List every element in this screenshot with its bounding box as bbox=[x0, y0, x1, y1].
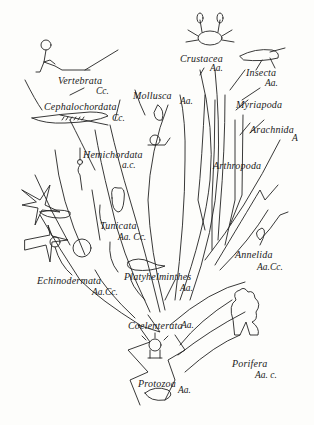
taxon-mollusca: Mollusca bbox=[133, 90, 172, 101]
taxon-echinodermata-code: Aa.Cc. bbox=[92, 287, 118, 297]
flatworm-icon bbox=[127, 259, 165, 271]
taxon-arachnida-code: A bbox=[292, 133, 298, 143]
taxon-echinodermata: Echinodermata bbox=[37, 275, 101, 286]
tunicate-icon bbox=[112, 187, 125, 212]
taxon-tunicata: Tunicata bbox=[100, 220, 137, 231]
taxon-coelenterata-code: Aa. bbox=[181, 320, 194, 330]
phylogenetic-tree-diagram: Vertebrata Cc. Cephalochordata Cc. Hemic… bbox=[0, 0, 314, 425]
lancelet-icon bbox=[32, 112, 108, 123]
taxon-myriapoda: Myriapoda bbox=[236, 99, 282, 110]
taxon-arachnida: Arachnida bbox=[250, 124, 294, 135]
taxon-porifera: Porifera bbox=[232, 358, 268, 369]
taxon-tunicata-code: Aa. Cc. bbox=[118, 232, 146, 242]
taxon-cephalochordata-code: Cc. bbox=[112, 113, 125, 123]
snail-icon bbox=[148, 105, 170, 145]
taxon-vertebrata: Vertebrata bbox=[58, 75, 102, 86]
worm-icon bbox=[256, 212, 288, 245]
taxon-platyhelminthes-code: Aa. bbox=[180, 283, 193, 293]
taxon-mollusca-code: Aa. bbox=[180, 96, 193, 106]
taxon-porifera-code: Aa. c. bbox=[255, 370, 277, 380]
taxon-crustacea-code: Aa. bbox=[210, 63, 223, 73]
taxon-coelenterata: Coelenterata bbox=[128, 320, 183, 331]
human-figure-icon bbox=[36, 40, 90, 72]
taxon-vertebrata-code: Cc. bbox=[96, 86, 109, 96]
amoeba-icon bbox=[145, 388, 171, 400]
taxon-annelida-code: Aa.Cc. bbox=[257, 262, 283, 272]
taxon-hemichordata: Hemichordata bbox=[83, 149, 143, 160]
taxon-arthropoda: Arthropoda bbox=[213, 160, 261, 171]
taxon-protozoa-code: Aa. bbox=[178, 385, 191, 395]
taxon-annelida: Annelida bbox=[235, 249, 273, 260]
crab-icon bbox=[186, 13, 234, 45]
taxon-cephalochordata: Cephalochordata bbox=[44, 101, 117, 112]
taxon-hemichordata-code: a.c. bbox=[122, 160, 136, 170]
taxon-insecta: Insecta bbox=[246, 67, 276, 78]
taxon-protozoa: Protozoa bbox=[138, 378, 176, 389]
hemichordate-icon bbox=[78, 148, 83, 190]
taxon-platyhelminthes: Platyhelminthes bbox=[124, 271, 191, 282]
taxon-insecta-code: Aa. bbox=[265, 78, 278, 88]
